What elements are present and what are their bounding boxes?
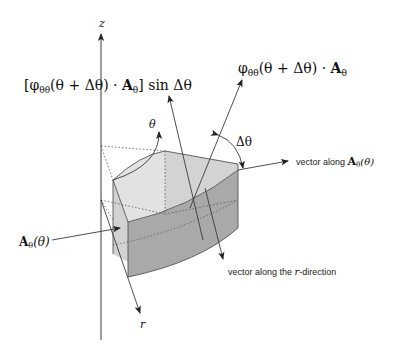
phi-vector-label: φθθ(θ + Δθ) · Aθ xyxy=(238,60,347,78)
a-theta-label: Aθ(θ) xyxy=(18,235,50,250)
diagram-canvas: θ z r [φθθ(θ + Δθ) · Aθ] sin Δθ φθθ(θ + … xyxy=(0,0,399,358)
theta-label: θ xyxy=(149,118,156,131)
delta-theta-label: Δθ xyxy=(236,135,252,149)
r-axis-label: r xyxy=(140,318,146,331)
a-theta-direction-label: vector along Aθ(θ) xyxy=(296,155,374,169)
sin-component-label: [φθθ(θ + Δθ) · Aθ] sin Δθ xyxy=(24,77,192,95)
volume-element xyxy=(101,146,238,277)
a-theta-pointer xyxy=(52,228,120,240)
z-axis-label: z xyxy=(98,17,105,30)
diagram-svg: θ z r [φθθ(θ + Δθ) · Aθ] sin Δθ φθθ(θ + … xyxy=(0,0,399,358)
r-direction-label: vector along the r-direction xyxy=(228,266,336,277)
a-theta-direction-vector xyxy=(238,161,288,170)
